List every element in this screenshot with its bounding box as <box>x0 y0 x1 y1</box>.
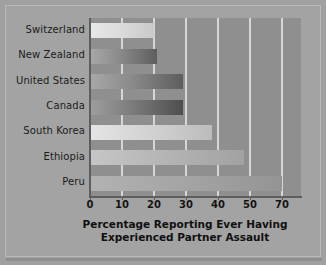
gridline <box>185 18 187 196</box>
gridline <box>281 18 283 196</box>
tick-label-50: 50 <box>238 199 262 210</box>
tick-label-70: 70 <box>270 199 294 210</box>
figure-shadow <box>6 258 322 261</box>
y-axis-line <box>89 18 91 198</box>
bar <box>90 125 212 140</box>
plot-area <box>90 18 301 196</box>
category-label-switzerland: Switzerland <box>3 24 85 35</box>
tick-label-10: 10 <box>110 199 134 210</box>
category-label-united-states: United States <box>3 75 85 86</box>
x-axis-title-line1: Percentage Reporting Ever Having <box>60 218 310 231</box>
chart-figure: SwitzerlandNew ZealandUnited StatesCanad… <box>0 0 326 265</box>
bar <box>90 100 183 115</box>
x-axis-line <box>89 196 302 198</box>
tick-label-40: 40 <box>206 199 230 210</box>
bar <box>90 49 157 64</box>
tick-label-0: 0 <box>78 199 102 210</box>
category-label-canada: Canada <box>3 100 85 111</box>
x-axis-title-line2: Experienced Partner Assault <box>60 231 310 244</box>
bar <box>90 150 244 165</box>
gridline <box>217 18 219 196</box>
tick-label-20: 20 <box>142 199 166 210</box>
category-axis-labels: SwitzerlandNew ZealandUnited StatesCanad… <box>0 18 85 196</box>
x-axis-title: Percentage Reporting Ever Having Experie… <box>60 218 310 244</box>
category-label-south-korea: South Korea <box>3 125 85 136</box>
category-label-peru: Peru <box>3 176 85 187</box>
tick-label-30: 30 <box>174 199 198 210</box>
bar <box>90 23 154 38</box>
bar <box>90 176 282 191</box>
category-label-new-zealand: New Zealand <box>3 49 85 60</box>
gridline <box>249 18 251 196</box>
category-label-ethiopia: Ethiopia <box>3 151 85 162</box>
bar <box>90 74 183 89</box>
